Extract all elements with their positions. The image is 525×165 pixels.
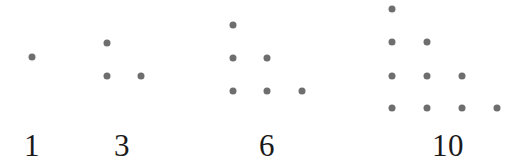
dot [494, 105, 501, 112]
group-label-10: 10 [432, 130, 464, 161]
dot [389, 39, 396, 46]
group-label-6: 6 [259, 130, 275, 161]
dot [424, 73, 431, 80]
triangular-numbers-figure: 13610 [0, 0, 525, 165]
dot [424, 105, 431, 112]
dot [459, 73, 466, 80]
dot [459, 105, 466, 112]
group-label-3: 3 [114, 130, 130, 161]
dot [389, 73, 396, 80]
dot [389, 105, 396, 112]
dot [389, 6, 396, 13]
group-label-1: 1 [24, 130, 40, 161]
dot [424, 39, 431, 46]
